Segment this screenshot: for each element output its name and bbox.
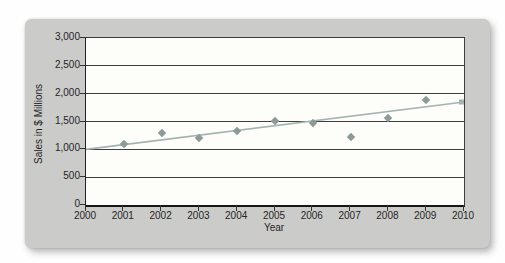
data-point-2001 xyxy=(120,140,128,148)
y-tick-label: 2,500 xyxy=(30,59,80,71)
y-tick-label: 1,500 xyxy=(30,115,80,127)
x-tick-label: 2000 xyxy=(65,210,105,222)
y-tick-2000 xyxy=(80,93,85,94)
data-point-2007 xyxy=(346,133,354,141)
y-tick-label: 500 xyxy=(30,170,80,182)
x-tick-label: 2001 xyxy=(103,210,143,222)
data-point-2005 xyxy=(271,117,279,125)
data-point-2004 xyxy=(233,127,241,135)
plot-area xyxy=(85,37,465,207)
y-tick-500 xyxy=(80,176,85,177)
x-tick-label: 2003 xyxy=(178,210,218,222)
x-tick-label: 2004 xyxy=(216,210,256,222)
data-point-2002 xyxy=(157,129,165,137)
x-axis-title: Year xyxy=(254,222,294,233)
trend-line-end-marker xyxy=(459,100,464,105)
x-tick-label: 2002 xyxy=(141,210,181,222)
x-tick-label: 2008 xyxy=(367,210,407,222)
x-tick-label: 2009 xyxy=(405,210,445,222)
x-tick-label: 2006 xyxy=(292,210,332,222)
y-tick-label: 3,000 xyxy=(30,31,80,43)
y-tick-label: 2,000 xyxy=(30,87,80,99)
data-point-2003 xyxy=(195,134,203,142)
y-tick-label: 0 xyxy=(30,198,80,210)
y-tick-2500 xyxy=(80,65,85,66)
x-tick-label: 2005 xyxy=(254,210,294,222)
gridline-500 xyxy=(86,177,464,178)
gridline-2000 xyxy=(86,93,464,94)
data-point-2006 xyxy=(309,118,317,126)
y-tick-1000 xyxy=(80,148,85,149)
x-tick-label: 2010 xyxy=(443,210,483,222)
y-tick-label: 1,000 xyxy=(30,142,80,154)
chart-figure: Sales in $ Millions Year 05001,0001,5002… xyxy=(0,0,505,263)
gridline-2500 xyxy=(86,65,464,66)
y-tick-1500 xyxy=(80,121,85,122)
x-tick-label: 2007 xyxy=(330,210,370,222)
data-point-2009 xyxy=(422,96,430,104)
y-tick-3000 xyxy=(80,37,85,38)
trend-line-segment xyxy=(86,102,464,149)
gridline-1000 xyxy=(86,149,464,150)
